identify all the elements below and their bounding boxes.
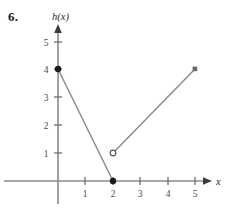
y-axis-arrow-icon xyxy=(54,24,62,33)
y-tick-label-5: 5 xyxy=(44,38,49,48)
x-tick-label-5: 5 xyxy=(193,189,198,199)
closed-point-5-4 xyxy=(193,67,198,72)
closed-point-0-4 xyxy=(55,66,61,72)
closed-point-2-0 xyxy=(110,178,116,184)
y-axis-label: h(x) xyxy=(52,11,69,23)
segment-descending xyxy=(58,69,113,181)
y-tick-label-4: 4 xyxy=(44,65,49,75)
x-tick-label-3: 3 xyxy=(138,189,143,199)
y-tick-label-2: 2 xyxy=(44,121,49,131)
graph-canvas: 5 4 3 2 1 1 2 3 4 5 h(x) x xyxy=(0,0,229,220)
x-tick-label-1: 1 xyxy=(83,189,88,199)
y-tick-label-1: 1 xyxy=(44,149,49,159)
open-point-2-1 xyxy=(110,150,116,156)
x-tick-label-2: 2 xyxy=(111,189,116,199)
y-tick-label-3: 3 xyxy=(44,93,49,103)
x-axis-arrow-icon xyxy=(203,177,212,185)
segment-ascending xyxy=(113,69,195,153)
x-tick-label-4: 4 xyxy=(166,189,171,199)
x-axis-label: x xyxy=(215,176,221,187)
figure-container: 6. 5 4 3 2 1 1 2 3 4 5 h(x) xyxy=(0,0,229,220)
